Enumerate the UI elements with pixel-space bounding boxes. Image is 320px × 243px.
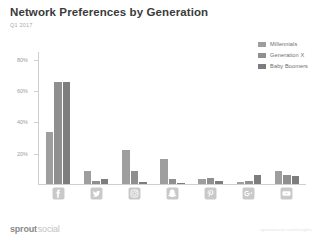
x-axis-category-instagram (115, 187, 153, 200)
bar (139, 182, 147, 184)
snapchat-icon (166, 187, 179, 200)
bar (122, 150, 130, 184)
bar (177, 183, 185, 184)
twitter-icon (90, 187, 103, 200)
y-axis-label: 80% (17, 57, 28, 63)
bar (92, 181, 100, 184)
bar (237, 182, 245, 184)
legend-item-millennials: Millennials (258, 41, 308, 47)
bar (54, 82, 62, 184)
sprout-social-logo: sproutsocial (10, 224, 60, 234)
chart-plot-area: 80% 60% 40% 20% (38, 52, 306, 185)
bar-group (230, 52, 268, 184)
x-axis-icon-row (39, 187, 306, 200)
source-note: sproutsocial.com/insights (260, 227, 312, 232)
bar (84, 171, 92, 184)
x-axis-category-twitter (77, 187, 115, 200)
brand-secondary-text: social (38, 224, 60, 234)
chart-header: Network Preferences by Generation Q1 201… (10, 6, 310, 28)
y-axis-label: 40% (17, 119, 28, 125)
x-axis-category-snapchat (153, 187, 191, 200)
bar-group (192, 52, 230, 184)
x-axis-category-youtube (268, 187, 306, 200)
x-axis-category-pinterest (192, 187, 230, 200)
bar (131, 171, 139, 184)
page-title: Network Preferences by Generation (10, 6, 310, 19)
bar (101, 179, 109, 184)
instagram-icon (128, 187, 141, 200)
bar (215, 181, 223, 184)
y-axis-label: 20% (17, 151, 28, 157)
y-tick-mark: 60% (34, 91, 38, 92)
bar (275, 171, 283, 184)
bar (283, 175, 291, 184)
chart-subtitle: Q1 2017 (10, 22, 310, 28)
bar-group (153, 52, 191, 184)
bar (198, 179, 206, 184)
brand-primary-text: sprout (10, 224, 37, 234)
pinterest-icon (204, 187, 217, 200)
bar-groups (39, 52, 306, 184)
legend-item-label: Millennials (270, 41, 297, 47)
bar (160, 159, 168, 184)
googleplus-icon (242, 187, 255, 200)
bar-group (77, 52, 115, 184)
y-tick-mark: 80% (34, 60, 38, 61)
y-tick-mark: 40% (34, 122, 38, 123)
bar (207, 178, 215, 184)
y-axis-label: 60% (17, 88, 28, 94)
chart-footer: sproutsocial sproutsocial.com/insights (0, 211, 320, 243)
legend-swatch-icon (258, 42, 266, 47)
youtube-icon (280, 187, 293, 200)
x-axis-category-facebook (39, 187, 77, 200)
x-axis-category-googleplus (230, 187, 268, 200)
bar (63, 82, 71, 184)
y-tick-mark: 20% (34, 154, 38, 155)
bar-group (115, 52, 153, 184)
x-axis-line (38, 184, 306, 185)
bar (245, 181, 253, 184)
bar (254, 175, 262, 184)
facebook-icon (52, 187, 65, 200)
bar (46, 132, 54, 184)
bar-group (268, 52, 306, 184)
bar-group (39, 52, 77, 184)
bar (169, 179, 177, 184)
bar (292, 176, 300, 184)
